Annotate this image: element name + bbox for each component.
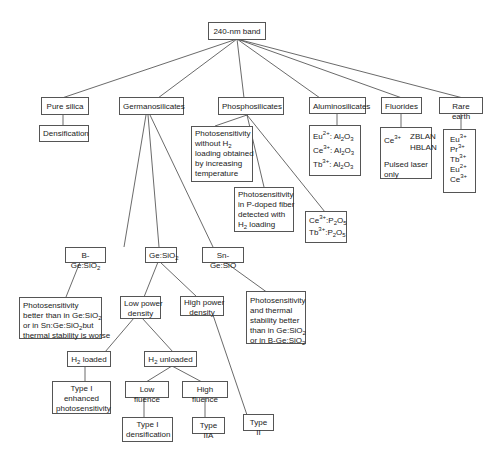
text-line: enhanced (56, 394, 107, 404)
fluoride-ion: Ce3+ (384, 136, 401, 146)
text-line: photosensitivity (56, 404, 107, 414)
text-line: Type I (126, 420, 169, 430)
ion-entry: Tb3+: Al2O3 (313, 158, 357, 172)
text-line: than in Ge:SiO (250, 326, 302, 335)
category-label: Germanosilicates (123, 102, 185, 111)
node-label: Low fluence (134, 385, 160, 404)
node-label: B-Ge:SiO (71, 251, 97, 270)
category-phosphosilicates: Phosphosilicates (218, 97, 284, 115)
category-germanosilicates: Germanosilicates (119, 97, 184, 115)
node-label: Sn-Ge:SiO (210, 251, 236, 270)
low-fluence-node: Low fluence (125, 381, 169, 398)
densification-label: Densification (43, 129, 89, 138)
phospho-ions-box: Ce3+:P2O5 Tb3+:P2O5 (305, 211, 347, 243)
type-iia-node: Type IIA (192, 417, 225, 434)
type-i-densification-node: Type I densification (122, 417, 173, 442)
text-line: density (184, 308, 220, 318)
text-line: or in B-Ge:SiO (250, 336, 302, 345)
type-i-enhanced-node: Type I enhanced photosensitivity (52, 381, 111, 414)
text-line: Photosensitivity (23, 301, 98, 311)
b-ge-note: Photosensitivity better than in Ge:SiO2 … (19, 297, 102, 339)
text-line: better than in Ge:SiO (23, 311, 98, 320)
text-line: Low power (124, 299, 157, 309)
ion-entry: Tb3+:P2O5 (309, 227, 343, 239)
subscript: 2 (175, 255, 178, 261)
text-line: unloaded (157, 355, 192, 364)
text-line: Photosensitivity (195, 129, 249, 139)
rare-earth-box: Eu3+ Pr3+ Tb3+ Eu2+ Ce3+ (443, 129, 476, 193)
ion-entry: Ce3+:P2O5 (309, 215, 343, 227)
subscript: 2 (98, 315, 101, 321)
densification-node: Densification (39, 125, 89, 142)
ion-entry: Ce3+: Al2O3 (313, 144, 357, 158)
phospho-note-h2-loading: Photosensitivity in P-doped fiber detect… (234, 187, 294, 232)
text-line: density (124, 309, 157, 319)
high-power-density-node: High power density (180, 296, 224, 316)
root-node: 240-nm band (208, 22, 266, 40)
text-line: Pulsed laser (384, 160, 428, 170)
text-line: Type I (56, 384, 107, 394)
category-aluminosilicates: Aluminosilicates (309, 97, 366, 114)
high-fluence-node: High fluence (182, 381, 228, 398)
text-line: only (384, 170, 428, 180)
ion-entry: Ce3+ (450, 175, 472, 185)
ion-entry: Eu2+: Al2O3 (313, 130, 357, 144)
h2-loaded-node: H2 loaded (67, 351, 111, 367)
text-line: loaded (80, 355, 106, 364)
subscript: 2 (302, 330, 305, 336)
alumino-ions-box: Eu2+: Al2O3 Ce3+: Al2O3 Tb3+: Al2O3 (309, 125, 361, 176)
node-label: High fluence (192, 385, 218, 404)
root-label: 240-nm band (213, 27, 260, 36)
text-line: and thermal (250, 306, 302, 316)
type-ii-node: Type II (243, 414, 274, 431)
text-line: Photosensitivity (238, 190, 290, 200)
text-line: thermal stability is worse (23, 331, 98, 341)
text-line: High power (184, 298, 220, 308)
text-line: detected with (238, 210, 290, 220)
host-hblan: HBLAN (410, 143, 437, 153)
category-rare-earth: Rare earth (439, 97, 483, 114)
text-line: by increasing (195, 159, 249, 169)
text-line: temperature (195, 169, 249, 179)
category-pure-silica: Pure silica (41, 97, 89, 115)
h2-unloaded-node: H2 unloaded (144, 351, 197, 367)
text-line: but (82, 321, 93, 330)
category-label: Rare earth (452, 102, 470, 121)
category-label: Fluorides (385, 102, 418, 111)
text-line: loading obtained (195, 149, 249, 159)
host-zblan: ZBLAN (410, 132, 436, 142)
text-line: Photosensitivity (250, 296, 302, 306)
fluorides-ion-row: Ce3+ ZBLAN HBLAN (384, 132, 428, 154)
ge-sio2-node: Ge:SiO2 (145, 247, 177, 263)
fluorides-box: Ce3+ ZBLAN HBLAN Pulsed laser only (380, 127, 432, 179)
category-fluorides: Fluorides (381, 97, 422, 114)
subscript: 2 (97, 265, 100, 271)
b-ge-sio2-node: B-Ge:SiO2 (65, 247, 106, 263)
category-label: Phosphosilicates (222, 102, 282, 111)
text-line: loading (247, 220, 275, 229)
category-label: Aluminosilicates (313, 102, 370, 111)
text-line: in P-doped fiber (238, 200, 290, 210)
low-power-density-node: Low power density (120, 296, 161, 319)
subscript: 2 (302, 340, 305, 346)
text-line: or in Sn:Ge:SiO (23, 321, 79, 330)
node-label: Ge:SiO (149, 251, 175, 260)
category-label: Pure silica (47, 102, 84, 111)
text-line: without H (195, 139, 228, 148)
phospho-note-temperature: Photosensitivity without H2 loading obta… (191, 126, 253, 182)
sn-ge-sio-node: Sn-Ge:SiO (202, 247, 244, 263)
text-line: stability better (250, 316, 302, 326)
sn-ge-note: Photosensitivity and thermal stability b… (246, 291, 306, 344)
text-line: densification (126, 430, 169, 440)
